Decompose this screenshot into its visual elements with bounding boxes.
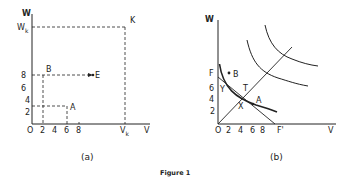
y-tick-8: 8 xyxy=(21,71,26,80)
y-axis-label: W xyxy=(22,9,31,18)
point-t-label: T xyxy=(242,84,248,93)
y-axis-label: W xyxy=(205,15,214,24)
point-b xyxy=(228,72,231,75)
x-tick-2: 2 xyxy=(226,126,231,135)
x-axis-label: V xyxy=(144,126,150,135)
figure-canvas: W V Wk K Vk B E A 8 6 4 2 O 2 4 6 8 (a) xyxy=(0,0,352,188)
figure-caption: Figure 1 xyxy=(160,169,191,177)
point-a-label: A xyxy=(256,96,262,105)
indifference-curve-3 xyxy=(265,25,318,66)
vk-label: Vk xyxy=(120,126,129,137)
x-tick-6: 6 xyxy=(250,126,255,135)
f-label: F xyxy=(209,69,214,78)
ray-from-origin xyxy=(218,47,292,124)
y-tick-4: 4 xyxy=(25,96,30,105)
panel-b: W V F B Y T X A 6 4 2 O 2 4 6 8 F' (b) xyxy=(205,15,336,162)
x-tick-2: 2 xyxy=(40,126,45,135)
point-a xyxy=(252,103,254,105)
point-e-label: E xyxy=(95,71,100,80)
y-tick-6: 6 xyxy=(209,84,214,93)
x-axis-label: V xyxy=(328,126,334,135)
y-tick-4: 4 xyxy=(209,95,214,104)
x-tick-4: 4 xyxy=(238,126,243,135)
x-tick-6: 6 xyxy=(64,126,69,135)
panel-b-label: (b) xyxy=(270,152,283,162)
point-b-label: B xyxy=(233,70,239,79)
fprime-label: F' xyxy=(277,126,284,135)
y-tick-2: 2 xyxy=(210,107,215,116)
x-tick-8: 8 xyxy=(260,126,265,135)
panel-a: W V Wk K Vk B E A 8 6 4 2 O 2 4 6 8 (a) xyxy=(17,9,150,162)
panel-a-label: (a) xyxy=(81,152,94,162)
origin-label: O xyxy=(215,126,221,135)
indifference-curve-2 xyxy=(247,40,308,86)
x-tick-4: 4 xyxy=(52,126,57,135)
point-x-label: X xyxy=(238,102,244,111)
point-y-label: Y xyxy=(219,85,225,94)
point-e xyxy=(92,74,95,77)
point-a-label: A xyxy=(70,103,76,112)
point-k-label: K xyxy=(130,16,136,25)
point-b-label: B xyxy=(46,65,52,74)
wk-label: Wk xyxy=(17,23,29,34)
y-tick-6: 6 xyxy=(21,84,26,93)
x-tick-8: 8 xyxy=(76,126,81,135)
y-tick-2: 2 xyxy=(25,108,30,117)
origin-label: O xyxy=(27,126,33,135)
